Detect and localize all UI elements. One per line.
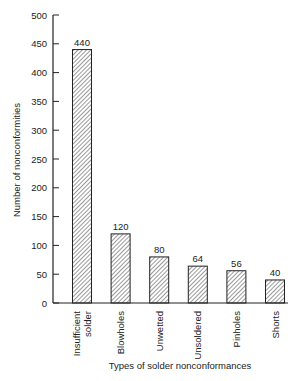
y-tick-label: 100	[31, 240, 47, 251]
x-tick-label: Unwetted	[154, 311, 165, 351]
x-tick-label: Shorts	[270, 311, 281, 339]
x-tick-label: Pinholes	[231, 311, 242, 348]
y-tick-label: 300	[31, 125, 47, 136]
x-tick-label: Unsoldered	[192, 311, 203, 360]
x-tick-label: Insufficientsolder	[71, 311, 93, 357]
bar	[150, 257, 169, 303]
y-tick-label: 0	[42, 298, 47, 309]
y-tick-label: 450	[31, 38, 47, 49]
y-tick-label: 200	[31, 182, 47, 193]
y-axis: 050100150200250300350400450500	[31, 10, 59, 309]
y-tick-label: 50	[36, 269, 47, 280]
svg-text:Unsoldered: Unsoldered	[192, 311, 203, 360]
bar-value-label: 440	[74, 37, 90, 48]
bar-value-label: 120	[113, 221, 129, 232]
svg-text:Pinholes: Pinholes	[231, 311, 242, 348]
bar-value-label: 40	[270, 267, 281, 278]
y-tick-label: 150	[31, 211, 47, 222]
y-tick-label: 250	[31, 154, 47, 165]
x-tick-label: Blowholes	[115, 311, 126, 355]
svg-text:Blowholes: Blowholes	[115, 311, 126, 355]
bar-value-label: 64	[193, 253, 204, 264]
bars: 44012080645640	[73, 37, 285, 303]
y-axis-label: Number of nonconformities	[11, 103, 22, 217]
pareto-bar-chart: 050100150200250300350400450500 440120806…	[0, 0, 297, 381]
bar	[73, 50, 92, 303]
svg-text:Insufficient: Insufficient	[71, 311, 82, 357]
bar-value-label: 56	[231, 258, 242, 269]
x-axis-label: Types of solder nonconformances	[109, 360, 252, 371]
bar-value-label: 80	[154, 244, 165, 255]
bar	[266, 280, 285, 303]
y-tick-label: 500	[31, 10, 47, 21]
bar	[188, 266, 207, 303]
bar	[111, 234, 130, 303]
bar	[227, 271, 246, 303]
svg-text:Shorts: Shorts	[270, 311, 281, 339]
y-tick-label: 350	[31, 96, 47, 107]
y-tick-label: 400	[31, 67, 47, 78]
x-axis: InsufficientsolderBlowholesUnwettedUnsol…	[53, 303, 288, 360]
svg-text:Unwetted: Unwetted	[154, 311, 165, 351]
svg-text:solder: solder	[82, 311, 93, 337]
